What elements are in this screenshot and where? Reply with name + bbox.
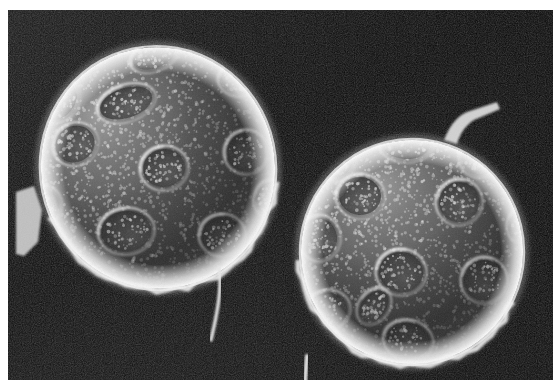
sem-scene [8, 10, 553, 380]
micrograph-image [8, 10, 553, 380]
film-grain-overlay [8, 10, 553, 380]
micrograph-figure [0, 0, 560, 391]
